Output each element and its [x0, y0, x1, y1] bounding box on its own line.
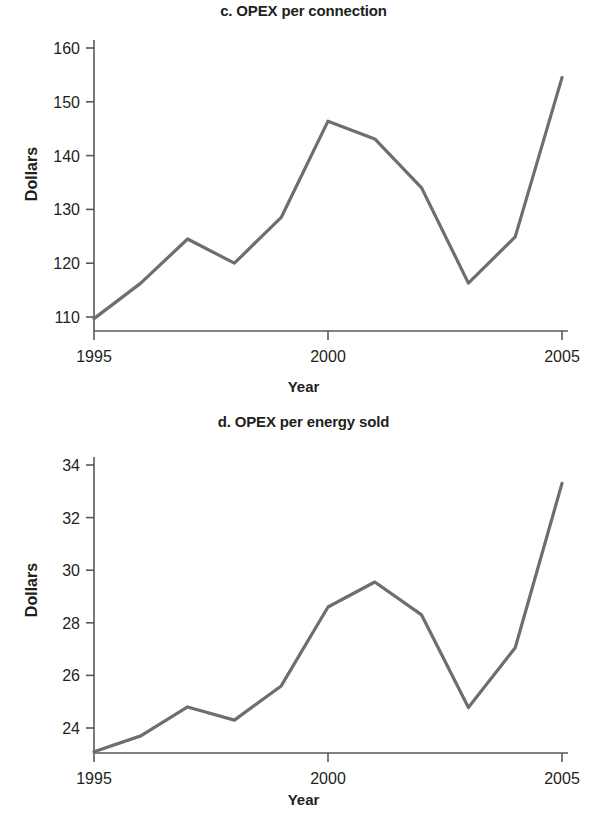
figure-page: c. OPEX per connection Dollars 110120130… [0, 0, 607, 821]
y-tick-label: 150 [53, 94, 80, 111]
chart-panel-d: d. OPEX per energy sold Dollars 24262830… [0, 411, 607, 821]
x-axis-label-d: Year [0, 791, 607, 808]
y-tick-label: 28 [62, 615, 80, 632]
data-series-line [94, 78, 562, 319]
y-tick-label: 32 [62, 510, 80, 527]
x-tick-label: 1995 [76, 770, 112, 787]
y-tick-label: 140 [53, 148, 80, 165]
x-tick-label: 2005 [544, 348, 580, 365]
x-axis-label-c: Year [0, 378, 607, 395]
y-tick-label: 110 [54, 309, 80, 326]
y-tick-label: 120 [53, 255, 80, 272]
x-tick-label: 2000 [310, 348, 346, 365]
x-tick-label: 2005 [544, 770, 580, 787]
y-tick-label: 26 [62, 667, 80, 684]
data-series-line [94, 483, 562, 751]
chart-panel-c: c. OPEX per connection Dollars 110120130… [0, 0, 607, 410]
x-tick-label: 2000 [310, 770, 346, 787]
plot-area-c: 110120130140150160199520002005 [0, 0, 607, 380]
y-tick-label: 160 [53, 40, 80, 57]
y-tick-label: 130 [53, 201, 80, 218]
y-tick-label: 34 [62, 457, 80, 474]
x-tick-label: 1995 [76, 348, 112, 365]
plot-area-d: 242628303234199520002005 [0, 411, 607, 791]
y-tick-label: 30 [62, 562, 80, 579]
y-tick-label: 24 [62, 720, 80, 737]
